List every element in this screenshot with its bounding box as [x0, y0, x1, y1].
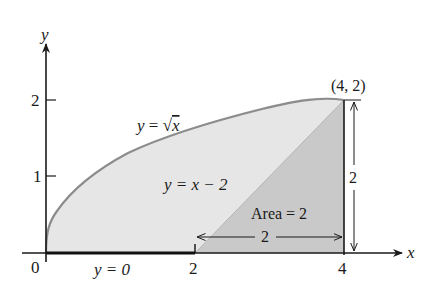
- line-label: y = x − 2: [162, 175, 228, 194]
- x-tick-label-4: 4: [338, 259, 347, 278]
- y-tick-label-1: 1: [33, 167, 42, 186]
- area-label: Area = 2: [251, 205, 307, 222]
- point-label: (4, 2): [331, 77, 366, 95]
- horizontal-dimension-label: 2: [261, 228, 269, 245]
- vertical-dimension-label: 2: [349, 169, 357, 186]
- area-diagram: y x 2 1 0 2 4 y = √x y = x − 2 y = 0 (4,…: [0, 0, 439, 300]
- x-axis-label: x: [406, 243, 415, 262]
- curve-label: y = √x: [135, 116, 180, 135]
- y-axis-label: y: [39, 25, 49, 44]
- y-tick-label-2: 2: [31, 91, 40, 110]
- baseline-label: y = 0: [92, 260, 131, 279]
- x-tick-label-2: 2: [189, 259, 198, 278]
- x-tick-label-0: 0: [31, 258, 40, 277]
